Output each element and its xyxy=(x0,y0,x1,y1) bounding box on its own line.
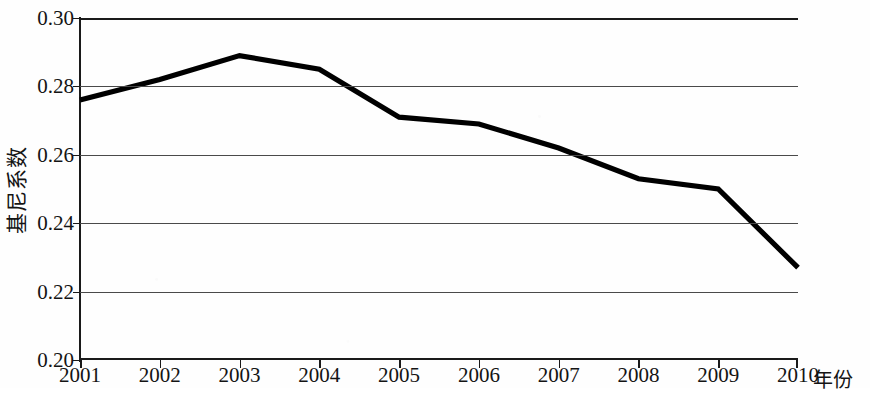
gridline-0.26 xyxy=(80,155,798,156)
gridline-0.22 xyxy=(80,292,798,293)
y-tick-label: 0.28 xyxy=(8,76,74,97)
y-tick-label: 0.24 xyxy=(8,213,74,234)
y-tickmark-0.24 xyxy=(73,223,80,224)
y-tick-label: 0.26 xyxy=(8,144,74,165)
gridline-0.24 xyxy=(80,223,798,224)
x-tick-label: 2003 xyxy=(219,364,261,386)
x-tick-label: 2009 xyxy=(697,364,739,386)
data-line-svg xyxy=(80,18,798,360)
x-tick-label: 2008 xyxy=(617,364,659,386)
y-tick-label: 0.22 xyxy=(8,281,74,302)
y-tickmark-0.30 xyxy=(73,18,80,19)
y-tickmark-0.26 xyxy=(73,155,80,156)
gridline-0.30 xyxy=(80,18,798,20)
x-tick-label: 2007 xyxy=(538,364,580,386)
y-tickmark-0.20 xyxy=(73,360,80,361)
gini-series-line xyxy=(80,56,798,268)
gridline-0.20 xyxy=(80,358,798,360)
x-axis-title: 年份 xyxy=(813,364,853,393)
x-tick-label: 2001 xyxy=(59,364,101,386)
x-tick-label: 2005 xyxy=(378,364,420,386)
y-tickmark-0.28 xyxy=(73,86,80,87)
y-tickmark-0.22 xyxy=(73,292,80,293)
x-tick-label: 2006 xyxy=(458,364,500,386)
y-axis-tick-labels: 0.300.280.260.240.220.20 xyxy=(6,0,74,388)
x-tick-label: 2002 xyxy=(139,364,181,386)
y-tick-label: 0.30 xyxy=(8,8,74,29)
plot-area xyxy=(80,18,798,360)
x-axis-tick-labels: 2001200220032004200520062007200820092010 xyxy=(0,364,870,390)
x-tick-label: 2004 xyxy=(298,364,340,386)
gridline-0.28 xyxy=(80,86,798,87)
